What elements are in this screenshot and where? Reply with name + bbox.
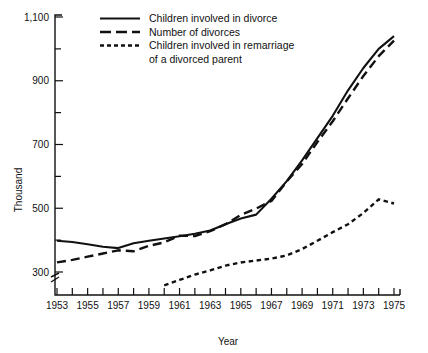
x-tick-label: 1965 (230, 300, 253, 311)
x-tick-label: 1969 (291, 300, 314, 311)
x-axis-tick-labels: 1953195519571959196119631965196719691971… (46, 300, 406, 311)
x-tick-label: 1963 (199, 300, 222, 311)
x-axis-title: Year (218, 336, 239, 347)
x-tick-label: 1957 (107, 300, 130, 311)
x-tick-label: 1953 (46, 300, 69, 311)
series-dashed (57, 41, 394, 263)
y-tick-label: 1,100 (24, 12, 49, 23)
series-dotted (164, 199, 394, 285)
y-tick-label: 300 (32, 267, 49, 278)
x-tick-label: 1973 (352, 300, 375, 311)
y-axis-ticks (55, 17, 63, 272)
y-tick-label: 900 (32, 75, 49, 86)
legend-label: Children involved in divorce (149, 12, 278, 24)
x-tick-label: 1971 (322, 300, 345, 311)
x-tick-label: 1975 (383, 300, 406, 311)
legend-label: of a divorced parent (149, 53, 242, 65)
data-series-group (57, 36, 394, 285)
divorce-trends-line-chart: 3005007009001,100 1953195519571959196119… (0, 0, 428, 353)
legend-label: Children involved in remarriage (149, 39, 294, 51)
x-tick-label: 1959 (138, 300, 161, 311)
x-tick-label: 1961 (168, 300, 191, 311)
x-tick-label: 1955 (77, 300, 100, 311)
y-axis-tick-labels: 3005007009001,100 (24, 12, 49, 278)
legend-label: Number of divorces (149, 26, 240, 38)
chart-legend: Children involved in divorceNumber of di… (100, 12, 294, 65)
y-axis-title: Thousand (13, 168, 24, 212)
x-tick-label: 1967 (260, 300, 283, 311)
x-axis-ticks (57, 288, 394, 295)
y-tick-label: 700 (32, 139, 49, 150)
y-tick-label: 500 (32, 203, 49, 214)
series-solid (57, 36, 394, 248)
